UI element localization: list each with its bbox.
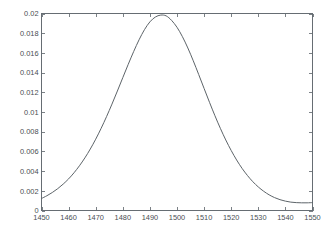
y-axis-tick-labels: 00.0020.0040.0060.0080.010.0120.0140.016…	[20, 9, 39, 215]
x-tick-label: 1550	[304, 213, 320, 222]
y-tick-label: 0.002	[20, 187, 39, 196]
y-tick-label: 0.012	[20, 88, 39, 97]
y-tick-label: 0.016	[20, 49, 39, 58]
x-tick-label: 1490	[142, 213, 158, 222]
x-tick-label: 1450	[33, 213, 49, 222]
y-tick-label: 0.006	[20, 147, 39, 156]
gaussian-curve	[42, 15, 313, 203]
y-tick-label: 0.01	[24, 108, 38, 117]
axes-frame	[42, 14, 313, 211]
y-tick-label: 0.008	[20, 127, 39, 136]
tick-marks-group	[42, 14, 314, 212]
x-tick-label: 1510	[196, 213, 212, 222]
plot-area: 00.0020.0040.0060.0080.010.0120.0140.016…	[0, 0, 334, 239]
y-tick-label: 0.014	[20, 68, 39, 77]
y-tick-label: 0.018	[20, 29, 39, 38]
x-tick-label: 1540	[277, 213, 293, 222]
x-tick-label: 1530	[250, 213, 266, 222]
x-tick-label: 1460	[60, 213, 76, 222]
x-tick-label: 1470	[87, 213, 103, 222]
x-tick-label: 1500	[169, 213, 185, 222]
figure-canvas: 00.0020.0040.0060.0080.010.0120.0140.016…	[0, 0, 334, 239]
x-tick-label: 1520	[223, 213, 239, 222]
x-tick-label: 1480	[115, 213, 131, 222]
y-tick-label: 0.02	[24, 9, 38, 18]
y-tick-label: 0.004	[20, 167, 39, 176]
x-axis-tick-labels: 1450146014701480149015001510152015301540…	[33, 213, 320, 222]
